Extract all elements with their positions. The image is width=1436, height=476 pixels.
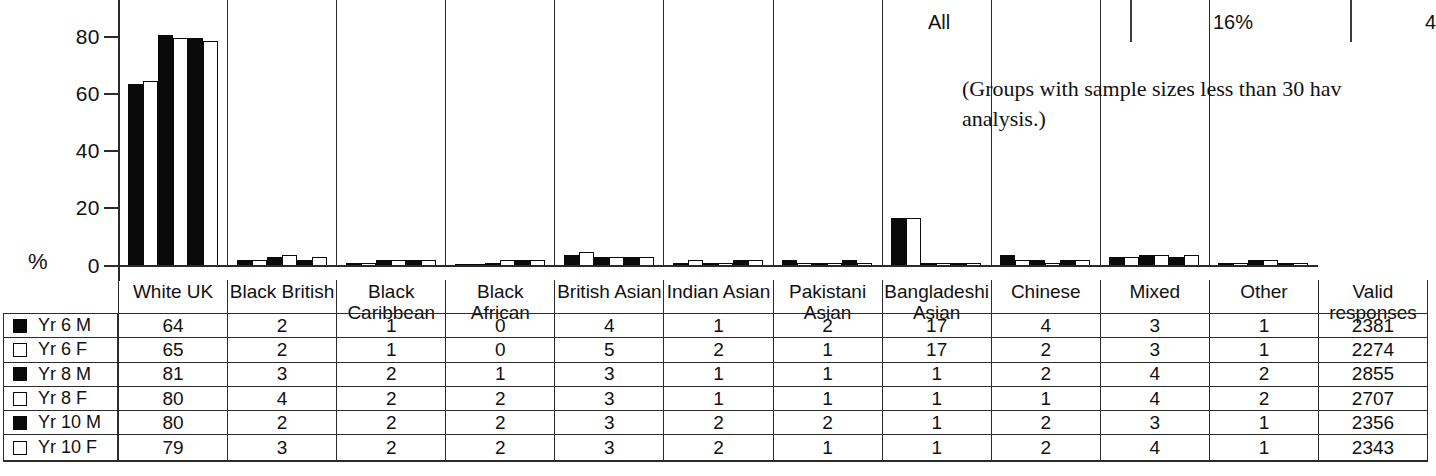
table-cell-value: 0: [446, 338, 554, 362]
table-cell-value: 1: [883, 387, 991, 411]
table-cell-value: 64: [119, 314, 227, 338]
table-cell-valid-responses: 2274: [1319, 338, 1427, 362]
legend-row: Yr 10 M: [4, 411, 117, 435]
table-cell-value: 2: [1210, 387, 1318, 411]
table-cell-value: 2: [228, 314, 336, 338]
table-cell-value: 65: [119, 338, 227, 362]
table-cell-value: 2: [337, 411, 445, 435]
bar: [173, 38, 188, 266]
table-cell-value: 1: [774, 338, 882, 362]
y-tick-label-0: 0: [40, 254, 100, 278]
table-cell-value: 1: [883, 411, 991, 435]
bar-group-bars: [227, 0, 336, 266]
table-cell-valid-responses: 2707: [1319, 387, 1427, 411]
fragment-label-all: All: [928, 11, 950, 34]
table-cell-value: 4: [1101, 387, 1209, 411]
table-cell-value: 2: [774, 314, 882, 338]
bar: [158, 35, 173, 266]
table-cell-value: 1: [883, 363, 991, 387]
table-cell-valid-responses: 2356: [1319, 411, 1427, 435]
table-cell-value: 1: [774, 435, 882, 459]
fragment-divider-1: [1130, 0, 1132, 42]
column-header-category: Black British: [228, 280, 336, 313]
table-cell-value: 2: [664, 411, 772, 435]
table-cell-value: 3: [555, 435, 663, 459]
table-cell-value: 1: [1210, 411, 1318, 435]
y-tick-mark-80: [104, 36, 119, 38]
table-cell-value: 1: [664, 387, 772, 411]
data-table: Yr 6 MYr 6 FYr 8 MYr 8 FYr 10 MYr 10 F W…: [3, 280, 1428, 462]
column-header-category: British Asian: [555, 280, 663, 313]
column-header-category: Chinese: [992, 280, 1100, 313]
fragment-value-cut-off: 4: [1425, 11, 1436, 34]
y-tick-label-60: 60: [40, 82, 100, 106]
table-column: Mixed334434: [1100, 280, 1209, 461]
table-cell-value: 3: [555, 363, 663, 387]
table-cell-value: 1: [774, 387, 882, 411]
column-header-category: Other: [1210, 280, 1318, 313]
table-column: White UK646581808079: [118, 280, 227, 461]
legend-swatch-filled: [13, 367, 27, 381]
column-header-category: BangladeshiAsian: [883, 280, 991, 313]
bar-group-separator: [663, 0, 664, 266]
table-cell-value: 1: [1210, 338, 1318, 362]
bar-group: [554, 0, 663, 266]
bar: [143, 81, 158, 266]
bar-group-separator: [445, 0, 446, 266]
column-header-text: Mixed: [1130, 281, 1181, 302]
bar: [188, 38, 203, 266]
table-cell-value: 1: [446, 363, 554, 387]
column-header-text: Indian Asian: [667, 281, 771, 302]
table-column: Indian Asian121122: [663, 280, 772, 461]
table-column: Black British223423: [227, 280, 336, 461]
table-grid: White UK646581808079Black British223423B…: [118, 280, 1428, 461]
table-cell-value: 1: [337, 338, 445, 362]
table-cell-value: 2: [228, 338, 336, 362]
bar: [891, 218, 906, 266]
bar: [203, 41, 218, 266]
table-cell-value: 2: [992, 363, 1100, 387]
column-header-category: PakistaniAsian: [774, 280, 882, 313]
y-tick-mark-40: [104, 150, 119, 152]
legend-row: Yr 10 F: [4, 435, 117, 459]
table-bottom-rule: [3, 460, 1428, 462]
column-header-text: Chinese: [1011, 281, 1081, 302]
y-tick-mark-60: [104, 93, 119, 95]
table-cell-value: 1: [883, 435, 991, 459]
table-cell-value: 80: [119, 411, 227, 435]
bar-group-bars: [445, 0, 554, 266]
table-cell-value: 1: [664, 314, 772, 338]
table-cell-value: 80: [119, 387, 227, 411]
table-cell-value: 4: [1101, 435, 1209, 459]
table-cell-value: 3: [228, 363, 336, 387]
y-tick-label-80: 80: [40, 25, 100, 49]
bar-group-separator: [336, 0, 337, 266]
table-cell-value: 2: [228, 411, 336, 435]
bar: [906, 218, 921, 266]
table-cell-value: 79: [119, 435, 227, 459]
y-tick-mark-20: [104, 207, 119, 209]
table-cell-value: 2: [446, 411, 554, 435]
column-header-category: BlackCaribbean: [337, 280, 445, 313]
table-cell-value: 2: [774, 411, 882, 435]
fragment-value-16pct: 16%: [1213, 11, 1253, 34]
table-cell-value: 1: [1210, 314, 1318, 338]
legend-row-label: Yr 6 F: [38, 339, 87, 360]
bar-group-separator: [227, 0, 228, 266]
table-cell-value: 1: [664, 363, 772, 387]
bar-group: [445, 0, 554, 266]
table-column-cells: 112211: [1210, 313, 1318, 461]
table-cell-value: 2: [446, 387, 554, 411]
table-cell-value: 1: [337, 314, 445, 338]
table-cell-value: 1: [1210, 435, 1318, 459]
y-tick-mark-0: [104, 265, 119, 267]
y-axis-percent-label: %: [28, 249, 48, 275]
column-header-category: Black African: [446, 280, 554, 313]
table-cell-value: 81: [119, 363, 227, 387]
bar-group: [336, 0, 445, 266]
table-cell-value: 2: [337, 363, 445, 387]
table-column: Chinese422122: [991, 280, 1100, 461]
x-axis-baseline: [118, 265, 1318, 267]
table-column-cells: 453333: [555, 313, 663, 461]
table-cell-value: 2: [664, 435, 772, 459]
